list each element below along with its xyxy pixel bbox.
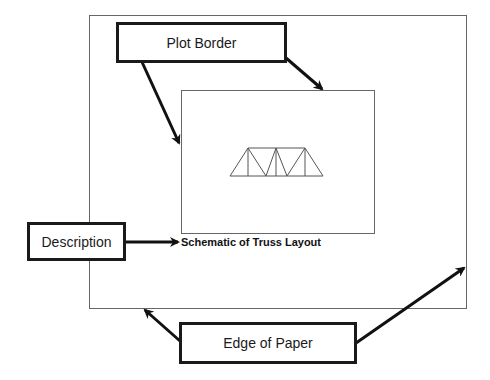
arrow-edge-left — [145, 310, 180, 341]
plot-border-label-text: Plot Border — [166, 35, 236, 51]
arrow-plot-border-top — [286, 58, 322, 89]
description-label: Description — [27, 222, 126, 261]
arrow-edge-right — [356, 268, 464, 343]
arrow-plot-border-left — [142, 62, 179, 143]
description-label-text: Description — [41, 234, 111, 250]
arrows — [125, 58, 464, 343]
plot-border — [182, 91, 375, 234]
plot-border-label: Plot Border — [116, 22, 287, 63]
plot-caption: Schematic of Truss Layout — [181, 236, 321, 248]
edge-of-paper-label: Edge of Paper — [179, 322, 357, 364]
truss-schematic — [230, 148, 323, 176]
edge-of-paper-label-text: Edge of Paper — [223, 335, 313, 351]
